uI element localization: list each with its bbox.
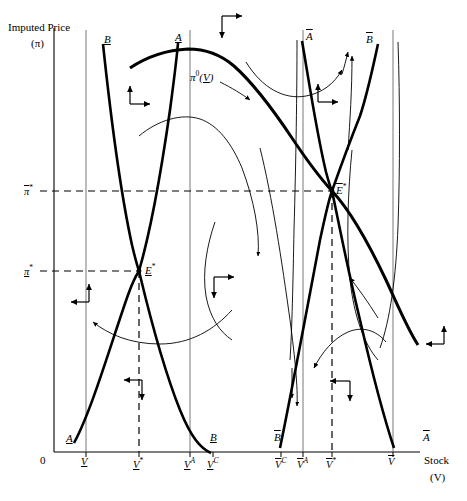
x-tick-V-under: V	[81, 457, 87, 468]
curve-A-under	[74, 43, 178, 443]
origin-label: 0	[40, 455, 46, 466]
equilibrium-point-lower	[137, 269, 142, 274]
trajectory-left-hump-tail	[242, 168, 258, 256]
phase-diagram-figure: Imputed Price (π) Stock (V) 0 π* π* V V*…	[0, 0, 467, 501]
curve-label-B-bar-top: B	[366, 34, 373, 45]
x-tick-V-bar-C: VC	[275, 457, 286, 470]
y-tick-pi-bar-star: π*	[24, 184, 33, 197]
equilibrium-points	[137, 189, 335, 274]
direction-field-crosses	[71, 16, 444, 401]
y-tick-pi-under-star: π*	[24, 264, 33, 277]
y-tick-pi-under-star-sup: *	[29, 263, 33, 272]
y-axis-title-line1: Imputed Price	[8, 22, 70, 33]
cross-upper-left	[130, 86, 150, 104]
cross-top-center	[222, 16, 242, 38]
curve-label-A-bar-top-base: A	[306, 30, 313, 42]
curve-label-A-under-top: A	[175, 32, 182, 43]
x-tick-V-under-base: V	[81, 456, 87, 467]
x-tick-V-bar-star-sup: *	[332, 456, 336, 465]
function-label-pi-zero: π0(V)	[190, 70, 213, 83]
trajectory-up-right-long	[342, 52, 348, 74]
curve-B-bar	[280, 44, 378, 448]
trajectory-vbarC-descend	[290, 40, 297, 360]
trajectory-inner-j	[205, 222, 232, 340]
curve-label-A-under-top-base: A	[175, 31, 182, 43]
curve-B-under	[103, 44, 211, 453]
x-tick-V-under-star-sup: *	[139, 456, 143, 465]
cross-mid-center	[214, 277, 234, 298]
x-tick-V-bar: V	[388, 457, 394, 468]
curve-label-B-under-top-base: B	[104, 33, 111, 45]
cross-far-right	[426, 326, 444, 344]
x-tick-V-under-C-sup: C	[213, 456, 218, 465]
curve-label-B-bar-bottom: B	[274, 432, 281, 443]
x-tick-V-bar-star: V*	[326, 457, 336, 470]
x-tick-V-bar-A: VA	[297, 457, 308, 470]
x-tick-V-bar-C-sup: C	[281, 456, 286, 465]
equilibrium-label-lower: E*	[145, 263, 155, 276]
y-axis-title-line2: (π)	[31, 38, 44, 49]
trajectory-center-right-descend	[260, 148, 297, 406]
x-tick-V-under-star: V*	[133, 457, 143, 470]
cross-lower-right	[330, 381, 350, 401]
x-tick-V-under-A-sup: A	[190, 456, 195, 465]
x-axis-title-line2: (V)	[430, 472, 445, 483]
curve-label-B-bar-bottom-base: B	[274, 431, 281, 443]
x-axis-title-line1: Stock	[424, 455, 449, 466]
trajectory-lower-right-hump	[314, 329, 386, 368]
y-tick-pi-bar-star-sup: *	[29, 183, 33, 192]
equilibrium-label-upper-base: E	[336, 184, 343, 196]
curve-label-A-bar-bottom: A	[423, 432, 430, 443]
curve-label-B-under-top: B	[104, 34, 111, 45]
trajectory-pi0-direction	[220, 82, 250, 100]
function-label-pi-zero-post: (V)	[199, 71, 213, 83]
trajectory-curves	[93, 40, 400, 406]
curve-label-A-under-bottom: A	[66, 433, 73, 444]
equilibrium-label-lower-base: E	[145, 264, 152, 276]
equilibrium-label-upper-sup: *	[343, 182, 347, 191]
curve-label-B-under-bottom: B	[210, 432, 217, 443]
equilibrium-label-lower-sup: *	[152, 262, 156, 271]
equilibrium-label-upper: E*	[336, 183, 346, 196]
curve-label-A-under-bottom-base: A	[66, 432, 73, 444]
x-tick-V-under-A: VA	[184, 457, 195, 470]
x-tick-V-bar-A-sup: A	[303, 456, 308, 465]
curve-label-A-bar-top: A	[306, 31, 313, 42]
diagram-canvas	[0, 0, 467, 501]
curve-label-A-bar-bottom-base: A	[423, 431, 430, 443]
equilibrium-point-upper	[330, 189, 335, 194]
curve-label-B-bar-top-base: B	[366, 33, 373, 45]
x-tick-V-under-C: VC	[207, 457, 218, 470]
trajectory-left-hump	[139, 117, 242, 168]
curve-label-B-under-bottom-base: B	[210, 431, 217, 443]
x-tick-V-bar-base: V	[388, 456, 394, 467]
trajectory-upper-right-smile	[246, 62, 342, 97]
